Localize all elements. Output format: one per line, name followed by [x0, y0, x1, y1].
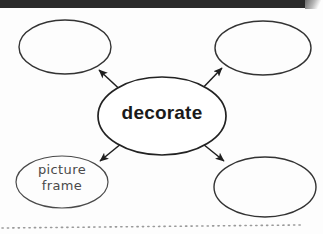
dotted-guide-line	[2, 225, 301, 228]
word-web-diagram	[0, 0, 323, 234]
node-bottom-left[interactable]	[16, 156, 108, 208]
node-top-right[interactable]	[215, 21, 311, 75]
node-bottom-right[interactable]	[214, 157, 316, 217]
worksheet-page: decorate picture frame	[0, 0, 323, 234]
node-top-left[interactable]	[19, 20, 111, 74]
node-center[interactable]	[98, 77, 226, 155]
